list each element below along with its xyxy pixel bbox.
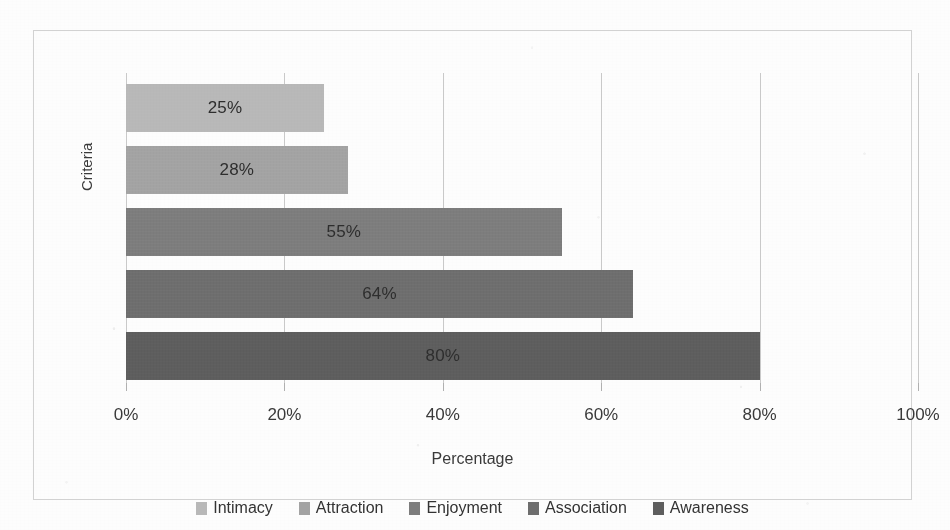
- tick-mark-100: [918, 383, 919, 391]
- legend-swatch-icon: [528, 502, 539, 515]
- legend-item-awareness[interactable]: Awareness: [653, 499, 749, 517]
- tick-mark-20: [284, 383, 285, 391]
- x-tick-label-80: 80%: [743, 405, 777, 425]
- legend-swatch-icon: [299, 502, 310, 515]
- legend-label: Awareness: [670, 499, 749, 517]
- bar-data-label-enjoyment: 55%: [326, 222, 361, 242]
- x-tick-label-60: 60%: [584, 405, 618, 425]
- gridline-80: [760, 73, 761, 383]
- legend-item-intimacy[interactable]: Intimacy: [196, 499, 273, 517]
- legend-swatch-icon: [653, 502, 664, 515]
- gridline-100: [918, 73, 919, 383]
- x-tick-label-0: 0%: [114, 405, 139, 425]
- legend-label: Intimacy: [213, 499, 273, 517]
- legend-label: Enjoyment: [426, 499, 502, 517]
- bar-data-label-attraction: 28%: [220, 160, 255, 180]
- legend-swatch-icon: [196, 502, 207, 515]
- tick-mark-0: [126, 383, 127, 391]
- x-axis-title: Percentage: [34, 450, 911, 468]
- tick-mark-60: [601, 383, 602, 391]
- x-tick-label-40: 40%: [426, 405, 460, 425]
- chart-page: 25%28%55%64%80% 0%20%40%60%80%100% Perce…: [0, 0, 950, 530]
- bar-data-label-intimacy: 25%: [208, 98, 243, 118]
- bar-data-label-awareness: 80%: [425, 346, 460, 366]
- legend-label: Association: [545, 499, 627, 517]
- chart-legend: IntimacyAttractionEnjoymentAssociationAw…: [34, 499, 911, 517]
- legend-item-attraction[interactable]: Attraction: [299, 499, 384, 517]
- x-tick-label-100: 100%: [896, 405, 939, 425]
- tick-mark-80: [760, 383, 761, 391]
- y-axis-title: Criteria: [78, 143, 95, 191]
- legend-item-enjoyment[interactable]: Enjoyment: [409, 499, 502, 517]
- chart-frame: 25%28%55%64%80% 0%20%40%60%80%100% Perce…: [33, 30, 912, 500]
- legend-item-association[interactable]: Association: [528, 499, 627, 517]
- x-tick-label-20: 20%: [267, 405, 301, 425]
- plot-area: 25%28%55%64%80%: [126, 73, 918, 383]
- tick-mark-40: [443, 383, 444, 391]
- bar-data-label-association: 64%: [362, 284, 397, 304]
- legend-swatch-icon: [409, 502, 420, 515]
- legend-label: Attraction: [316, 499, 384, 517]
